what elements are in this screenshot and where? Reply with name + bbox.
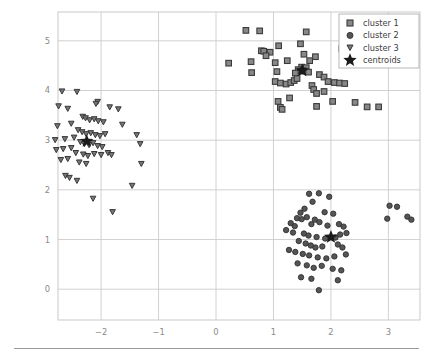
data-point-1-15 (317, 219, 322, 224)
data-point-1-44 (304, 263, 309, 268)
data-point-0-50 (364, 104, 370, 110)
y-tick-label-2: 2 (45, 185, 50, 195)
scatter-plot-figure: −2−10123012345cluster 1cluster 2cluster … (0, 0, 433, 340)
data-point-1-1 (316, 191, 321, 196)
data-point-0-51 (376, 104, 382, 110)
data-point-0-44 (275, 99, 281, 105)
data-point-0-4 (298, 41, 304, 47)
data-point-1-18 (341, 224, 346, 229)
data-point-0-17 (313, 54, 319, 60)
data-point-0-30 (278, 80, 284, 86)
legend-label-1: cluster 2 (363, 30, 399, 40)
data-point-1-43 (295, 261, 300, 266)
data-point-0-1 (257, 28, 263, 34)
data-point-1-20 (290, 230, 295, 235)
data-point-0-5 (276, 43, 282, 49)
data-point-1-57 (409, 217, 414, 222)
data-point-1-27 (344, 230, 349, 235)
data-point-0-26 (274, 69, 280, 75)
data-point-0-38 (342, 81, 348, 87)
data-point-1-47 (330, 266, 335, 271)
data-point-1-19 (283, 227, 288, 232)
x-tick-label-1: −1 (152, 327, 164, 337)
y-tick-label-0: 0 (45, 284, 50, 294)
data-point-0-25 (249, 70, 255, 76)
data-point-1-53 (387, 203, 392, 208)
legend-label-2: cluster 3 (363, 43, 399, 53)
data-point-0-12 (301, 51, 307, 57)
data-point-0-34 (294, 76, 300, 82)
data-point-1-13 (292, 223, 297, 228)
data-point-1-51 (335, 278, 340, 283)
y-tick-label-4: 4 (45, 85, 50, 95)
data-point-1-26 (337, 232, 342, 237)
x-tick-label-5: 3 (386, 327, 391, 337)
data-point-1-42 (343, 252, 348, 257)
data-point-1-48 (339, 268, 344, 273)
data-point-1-54 (394, 204, 399, 209)
data-point-1-45 (311, 265, 316, 270)
data-point-0-46 (352, 100, 358, 106)
page-root: −2−10123012345cluster 1cluster 2cluster … (0, 0, 433, 356)
data-point-1-0 (306, 191, 311, 196)
data-point-1-22 (306, 233, 311, 238)
legend-label-3: centroids (363, 55, 401, 65)
bottom-divider (14, 348, 419, 349)
data-point-1-32 (320, 244, 325, 249)
data-point-0-0 (243, 28, 249, 34)
data-point-0-13 (248, 59, 254, 65)
data-point-1-40 (324, 256, 329, 261)
x-tick-label-3: 1 (271, 327, 276, 337)
data-point-0-49 (314, 104, 320, 110)
y-tick-label-3: 3 (45, 135, 50, 145)
data-point-1-49 (298, 275, 303, 280)
data-point-1-31 (313, 245, 318, 250)
data-point-1-9 (299, 216, 304, 221)
x-tick-label-0: −2 (95, 327, 107, 337)
circle-marker-icon (347, 32, 353, 38)
data-point-0-43 (287, 95, 293, 101)
data-point-0-41 (314, 91, 320, 97)
data-point-1-7 (331, 211, 336, 216)
data-point-1-3 (310, 199, 315, 204)
data-point-0-11 (263, 53, 269, 59)
data-point-0-24 (293, 70, 299, 76)
data-point-1-2 (327, 194, 332, 199)
x-tick-label-2: 0 (213, 327, 218, 337)
data-point-1-16 (325, 223, 330, 228)
data-point-1-28 (296, 238, 301, 243)
data-point-1-56 (385, 216, 390, 221)
data-point-0-52 (226, 60, 232, 66)
data-point-1-37 (300, 251, 305, 256)
data-point-1-10 (304, 214, 309, 219)
data-point-0-42 (321, 89, 327, 95)
data-point-2-25 (52, 138, 58, 143)
y-tick-label-5: 5 (45, 36, 50, 46)
data-point-0-14 (272, 60, 278, 66)
data-point-1-39 (315, 255, 320, 260)
data-point-0-2 (303, 29, 309, 35)
data-point-0-16 (307, 58, 313, 64)
square-marker-icon (347, 20, 353, 26)
chart-legend: cluster 1cluster 2cluster 3centroids (339, 14, 419, 68)
data-point-1-36 (293, 249, 298, 254)
data-point-1-14 (309, 221, 314, 226)
data-point-1-46 (319, 263, 324, 268)
data-point-0-48 (279, 107, 285, 113)
data-point-0-45 (330, 99, 336, 105)
legend-label-0: cluster 1 (363, 18, 399, 28)
data-point-1-5 (298, 210, 303, 215)
x-tick-label-4: 2 (328, 327, 333, 337)
data-point-1-23 (314, 234, 319, 239)
plot-canvas: −2−10123012345cluster 1cluster 2cluster … (0, 0, 433, 340)
data-point-1-38 (306, 253, 311, 258)
data-point-1-52 (316, 287, 321, 292)
data-point-1-6 (322, 210, 327, 215)
y-tick-label-1: 1 (45, 235, 50, 245)
data-point-1-41 (332, 254, 337, 259)
data-point-0-15 (284, 58, 290, 64)
data-point-0-35 (325, 79, 331, 85)
data-point-1-35 (286, 247, 291, 252)
data-point-1-34 (340, 245, 345, 250)
data-point-1-50 (309, 276, 314, 281)
